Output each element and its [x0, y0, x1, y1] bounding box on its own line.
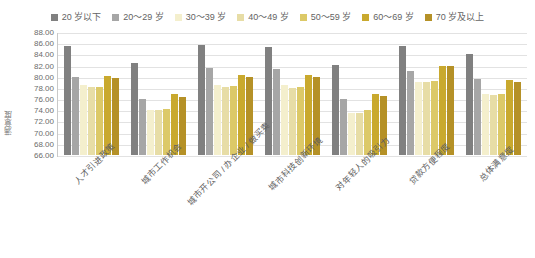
bar[interactable]	[348, 113, 355, 155]
bar-group	[58, 33, 125, 155]
legend-item-0[interactable]: 20 岁以下	[51, 12, 102, 22]
x-axis-tick-cell: 城市科技创新环境	[258, 158, 325, 254]
chart-legend: 20 岁以下 20～29 岁 30～39 岁 40～49 岁 50～59 岁 6…	[0, 8, 535, 26]
x-axis-tick-cell: 贷款方便程度	[393, 158, 460, 254]
legend-label: 30～39 岁	[186, 12, 227, 22]
bar[interactable]	[407, 71, 414, 155]
legend-swatch-icon	[362, 14, 369, 21]
legend-swatch-icon	[425, 14, 432, 21]
y-axis-tick: 76.00	[34, 96, 54, 104]
bar[interactable]	[431, 81, 438, 155]
legend-swatch-icon	[237, 14, 244, 21]
bar-group	[460, 33, 527, 155]
bar[interactable]	[88, 87, 95, 155]
y-axis-tick: 74.00	[34, 107, 54, 115]
legend-item-6[interactable]: 70 岁及以上	[425, 12, 485, 22]
bar[interactable]	[447, 66, 454, 155]
x-axis-tick-cell: 城市开公司 / 办企业 / 做买卖	[191, 158, 258, 254]
y-axis-tick: 78.00	[34, 85, 54, 93]
bar[interactable]	[131, 63, 138, 155]
bars-layer	[58, 33, 527, 155]
y-axis-tick: 66.00	[34, 152, 54, 160]
y-axis-tick: 82.00	[34, 63, 54, 71]
plot-wrapper: 满意度 88.0086.0084.0082.0080.0078.0076.007…	[0, 33, 535, 163]
bar[interactable]	[297, 87, 304, 155]
y-axis-tick: 86.00	[34, 40, 54, 48]
legend-label: 20 岁以下	[62, 12, 102, 22]
bar[interactable]	[281, 85, 288, 155]
bar[interactable]	[139, 99, 146, 155]
bar[interactable]	[206, 68, 213, 155]
bar[interactable]	[332, 65, 339, 155]
legend-swatch-icon	[175, 14, 182, 21]
bar[interactable]	[482, 94, 489, 156]
bar-group	[125, 33, 192, 155]
bar[interactable]	[415, 82, 422, 155]
legend-item-5[interactable]: 60～69 岁	[362, 12, 414, 22]
bar[interactable]	[289, 88, 296, 155]
y-axis-title: 满意度	[4, 111, 18, 135]
bar[interactable]	[222, 87, 229, 155]
bar[interactable]	[147, 110, 154, 155]
bar[interactable]	[399, 46, 406, 155]
x-axis-tick-labels: 人才引进政策城市工作机会城市开公司 / 办企业 / 做买卖城市科技创新环境对年轻…	[57, 158, 527, 254]
x-axis-tick-cell: 城市工作机会	[124, 158, 191, 254]
y-axis-tick: 70.00	[34, 130, 54, 138]
legend-item-3[interactable]: 40～49 岁	[237, 12, 289, 22]
bar[interactable]	[474, 79, 481, 155]
bar[interactable]	[64, 46, 71, 155]
bar[interactable]	[80, 85, 87, 155]
bar[interactable]	[72, 77, 79, 155]
bar[interactable]	[356, 113, 363, 155]
legend-swatch-icon	[51, 14, 58, 21]
y-axis-tick: 88.00	[34, 29, 54, 37]
bar[interactable]	[230, 86, 237, 155]
bar[interactable]	[214, 85, 221, 155]
x-axis-tick-cell: 对年轻人的吸引力	[326, 158, 393, 254]
bar-group	[393, 33, 460, 155]
legend-item-4[interactable]: 50～59 岁	[300, 12, 352, 22]
bar[interactable]	[155, 110, 162, 155]
y-axis-tick: 84.00	[34, 51, 54, 59]
legend-label: 20～29 岁	[123, 12, 164, 22]
bar[interactable]	[423, 82, 430, 155]
legend-item-2[interactable]: 30～39 岁	[175, 12, 227, 22]
y-axis-tick-labels: 88.0086.0084.0082.0080.0078.0076.0074.00…	[18, 33, 54, 163]
bar[interactable]	[198, 45, 205, 155]
bar[interactable]	[466, 54, 473, 155]
bar[interactable]	[498, 94, 505, 156]
plot-area	[57, 33, 527, 157]
legend-item-1[interactable]: 20～29 岁	[112, 12, 164, 22]
bar[interactable]	[490, 95, 497, 155]
y-axis-tick: 80.00	[34, 74, 54, 82]
bar[interactable]	[273, 69, 280, 155]
y-axis-tick: 72.00	[34, 118, 54, 126]
gridline	[58, 156, 527, 157]
x-axis-tick-cell: 人才引进政策	[57, 158, 124, 254]
x-axis-tick-cell: 总体满意度	[460, 158, 527, 254]
legend-swatch-icon	[300, 14, 307, 21]
legend-swatch-icon	[112, 14, 119, 21]
bar[interactable]	[340, 99, 347, 155]
bar[interactable]	[514, 82, 521, 155]
bar[interactable]	[506, 80, 513, 155]
legend-label: 60～69 岁	[373, 12, 414, 22]
legend-label: 70 岁及以上	[436, 12, 485, 22]
bar[interactable]	[96, 87, 103, 155]
y-axis-tick: 68.00	[34, 141, 54, 149]
legend-label: 40～49 岁	[248, 12, 289, 22]
bar[interactable]	[265, 47, 272, 155]
legend-label: 50～59 岁	[311, 12, 352, 22]
grouped-bar-chart: 20 岁以下 20～29 岁 30～39 岁 40～49 岁 50～59 岁 6…	[0, 0, 535, 258]
